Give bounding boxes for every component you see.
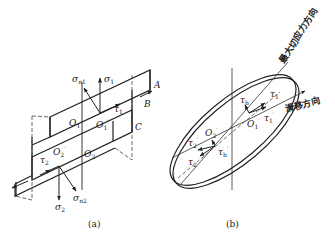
label-A: A <box>153 80 161 90</box>
max-shear-direction-label: 最大切应力方向 <box>276 6 319 65</box>
panel-a-diagram <box>15 70 150 197</box>
label-tau-b-prime: τb′ <box>218 145 229 158</box>
label-sigma-n2: σn2 <box>73 193 87 204</box>
label-O1-prime: O1′ <box>96 118 109 131</box>
label-tau-2-prime: τ2′ <box>188 136 199 149</box>
slip-direction-label: 滑移方向 <box>284 95 322 114</box>
label-O1: O1 <box>69 118 80 129</box>
sigma-n2-arrow <box>59 166 76 191</box>
label-tau-2-b: τ2 <box>188 157 197 168</box>
caption-a: (a) <box>88 219 100 229</box>
label-O2-prime-b: O2′ <box>205 126 218 139</box>
slip-mechanism-figure: σn1 σ1 A B τ1 O1 O1′ C τ2 O2′ O2 σ2 σn2 … <box>0 0 335 235</box>
tau-b-vector <box>245 105 249 113</box>
label-tau-1: τ1 <box>114 104 123 115</box>
label-sigma-1: σ1 <box>104 74 114 85</box>
caption-b: (b) <box>226 219 239 229</box>
label-tau-2: τ2 <box>40 155 49 166</box>
label-tau-1-prime: τ1′ <box>264 111 275 124</box>
label-B: B <box>143 99 151 109</box>
label-O1-prime-b: O1′ <box>247 117 260 130</box>
label-O2-prime: O2′ <box>53 145 66 158</box>
label-tau-b: τb <box>240 95 249 106</box>
label-tau-1-b: τ1 <box>270 89 279 100</box>
label-sigma-2: σ2 <box>55 202 65 213</box>
label-C: C <box>135 122 142 132</box>
panel-b-diagram: 最大切应力方向 滑移方向 τb τ1 τ1′ O1′ τ2′ O2′ τb′ τ… <box>154 6 321 229</box>
tau-b-prime-vector <box>212 140 215 146</box>
label-sigma-n1: σn1 <box>72 74 86 85</box>
